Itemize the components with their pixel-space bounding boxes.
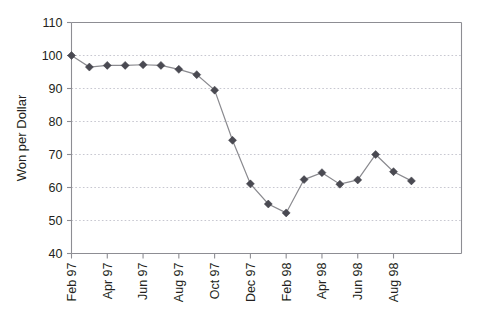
y-tick-label-100: 100 xyxy=(42,49,63,63)
y-tick-label-70: 70 xyxy=(49,148,63,162)
y-tick-label-60: 60 xyxy=(49,181,63,195)
x-tick-label-9: Aug 98 xyxy=(387,262,401,302)
x-tick-label-1: Apr 97 xyxy=(101,262,115,299)
y-tick-label-80: 80 xyxy=(49,115,63,129)
x-tick-label-7: Apr 98 xyxy=(315,262,329,299)
x-tick-label-4: Oct 97 xyxy=(208,262,222,299)
x-tick-label-0: Feb 97 xyxy=(65,262,79,301)
x-tick-label-8: Jun 98 xyxy=(351,262,365,300)
x-tick-label-3: Aug 97 xyxy=(172,262,186,302)
x-tick-label-5: Dec 97 xyxy=(244,262,258,302)
y-tick-label-90: 90 xyxy=(49,82,63,96)
x-tick-label-2: Jun 97 xyxy=(136,262,150,300)
y-tick-label-110: 110 xyxy=(43,16,63,30)
y-axis-title: Won per Dollar xyxy=(14,94,29,181)
y-tick-label-40: 40 xyxy=(49,247,63,261)
line-chart: 405060708090100110 Feb 97Apr 97Jun 97Aug… xyxy=(0,0,480,322)
x-tick-label-6: Feb 98 xyxy=(280,262,294,301)
y-tick-label-50: 50 xyxy=(49,214,63,228)
chart-container: 405060708090100110 Feb 97Apr 97Jun 97Aug… xyxy=(0,0,480,322)
